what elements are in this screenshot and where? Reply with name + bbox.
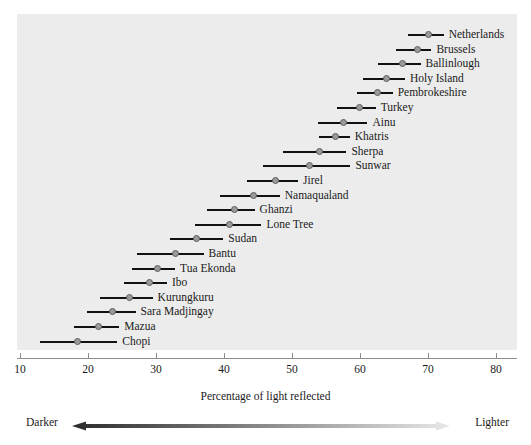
row-label: Jirel [303, 173, 323, 187]
x-tick [20, 353, 21, 359]
row-label: Turkey [381, 100, 414, 114]
data-row[interactable]: Holy Island [0, 72, 531, 86]
row-label: Khatris [355, 129, 389, 143]
mean-marker [374, 89, 381, 96]
mean-marker [356, 104, 363, 111]
x-tick-label: 20 [68, 362, 108, 376]
x-tick-label: 40 [204, 362, 244, 376]
mean-marker [154, 265, 161, 272]
data-row[interactable]: Sherpa [0, 145, 531, 159]
x-tick [156, 353, 157, 359]
mean-marker [226, 221, 233, 228]
data-row[interactable]: Sudan [0, 232, 531, 246]
data-row[interactable]: Sara Madjingay [0, 305, 531, 319]
data-row[interactable]: Lone Tree [0, 218, 531, 232]
row-label: Tua Ekonda [180, 261, 235, 275]
darkness-gradient-arrow [72, 421, 450, 431]
data-row[interactable]: Kurungkuru [0, 291, 531, 305]
mean-marker [74, 338, 81, 345]
row-label: Bantu [209, 246, 236, 260]
row-label: Sunwar [355, 158, 390, 172]
row-label: Holy Island [410, 71, 464, 85]
x-tick-label: 60 [340, 362, 380, 376]
row-label: Sara Madjingay [141, 304, 214, 318]
row-label: Sherpa [351, 144, 383, 158]
row-label: Namaqualand [285, 188, 349, 202]
data-row[interactable]: Ibo [0, 276, 531, 290]
x-axis-line [17, 358, 517, 359]
mean-marker [316, 148, 323, 155]
x-tick [496, 353, 497, 359]
data-row[interactable]: Namaqualand [0, 189, 531, 203]
legend-darker-label: Darker [26, 416, 58, 428]
row-label: Ainu [372, 115, 395, 129]
mean-marker [306, 162, 313, 169]
x-tick [292, 353, 293, 359]
row-label: Ibo [172, 275, 187, 289]
data-row[interactable]: Khatris [0, 130, 531, 144]
row-label: Pembrokeshire [398, 85, 467, 99]
data-row[interactable]: Tua Ekonda [0, 262, 531, 276]
x-axis-label: Percentage of light reflected [0, 390, 531, 402]
mean-marker [340, 119, 347, 126]
x-tick [224, 353, 225, 359]
shade-legend: Darker Lighter [0, 412, 531, 436]
legend-lighter-label: Lighter [475, 416, 509, 428]
x-tick-label: 70 [408, 362, 448, 376]
mean-marker [95, 323, 102, 330]
mean-marker [193, 235, 200, 242]
x-tick [360, 353, 361, 359]
data-row[interactable]: Sunwar [0, 159, 531, 173]
mean-marker [250, 192, 257, 199]
row-label: Ghanzi [260, 202, 293, 216]
row-label: Ballinlough [426, 56, 480, 70]
mean-marker [172, 250, 179, 257]
row-label: Kurungkuru [158, 290, 214, 304]
row-label: Netherlands [449, 27, 505, 41]
data-row[interactable]: Turkey [0, 101, 531, 115]
mean-marker [272, 177, 279, 184]
mean-marker [109, 308, 116, 315]
mean-marker [231, 206, 238, 213]
x-tick [428, 353, 429, 359]
row-label: Sudan [228, 231, 257, 245]
mean-marker [332, 133, 339, 140]
x-tick [88, 353, 89, 359]
mean-marker [383, 75, 390, 82]
data-row[interactable]: Pembrokeshire [0, 86, 531, 100]
data-row[interactable]: Ghanzi [0, 203, 531, 217]
mean-marker [414, 46, 421, 53]
row-label: Lone Tree [266, 217, 313, 231]
mean-marker [126, 294, 133, 301]
range-bar [137, 253, 204, 255]
row-label: Chopi [122, 334, 150, 348]
data-row[interactable]: Netherlands [0, 28, 531, 42]
range-bar [283, 151, 346, 153]
row-label: Mazua [124, 319, 155, 333]
x-tick-label: 50 [272, 362, 312, 376]
x-tick-label: 30 [136, 362, 176, 376]
data-row[interactable]: Ainu [0, 116, 531, 130]
row-label: Brussels [436, 42, 475, 56]
mean-marker [146, 279, 153, 286]
data-row[interactable]: Mazua [0, 320, 531, 334]
data-row[interactable]: Bantu [0, 247, 531, 261]
data-row[interactable]: Chopi [0, 335, 531, 349]
data-row[interactable]: Jirel [0, 174, 531, 188]
chart-figure: NetherlandsBrusselsBallinloughHoly Islan… [0, 0, 531, 445]
mean-marker [399, 60, 406, 67]
x-tick-label: 10 [0, 362, 40, 376]
data-row[interactable]: Brussels [0, 43, 531, 57]
mean-marker [425, 31, 432, 38]
x-tick-label: 80 [476, 362, 516, 376]
data-row[interactable]: Ballinlough [0, 57, 531, 71]
